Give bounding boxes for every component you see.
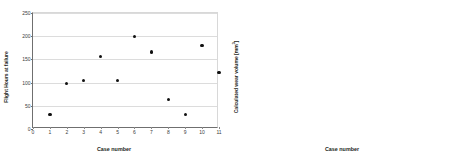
- right-y-axis-label-tail: ]: [233, 41, 239, 43]
- data-point: [217, 71, 220, 74]
- x-tick-label: 10: [199, 129, 205, 135]
- y-tick-mark: [31, 36, 33, 37]
- right-x-axis-label: Case number: [228, 146, 456, 152]
- left-y-axis-label: Flight Hours at failure: [0, 0, 12, 154]
- x-tick-label: 9: [184, 129, 187, 135]
- x-tick-label: 11: [216, 129, 221, 135]
- left-plot-area: 05010015020025001234567891011: [32, 12, 218, 128]
- left-x-axis-label: Case number: [0, 146, 228, 152]
- data-point: [48, 113, 51, 116]
- y-tick-label: 200: [22, 33, 30, 39]
- panel-flight-hours: Flight Hours at failure 0501001502002500…: [0, 0, 228, 154]
- gridline-y: [33, 83, 217, 84]
- y-tick-label: 100: [22, 80, 30, 86]
- gridline-y: [33, 59, 217, 60]
- y-tick-mark: [31, 13, 33, 14]
- data-point: [184, 113, 187, 116]
- x-tick-label: 8: [167, 129, 170, 135]
- x-tick-label: 0: [32, 129, 35, 135]
- y-tick-mark: [31, 59, 33, 60]
- y-tick-label: 50: [25, 103, 31, 109]
- x-tick-label: 7: [150, 129, 153, 135]
- gridline-y: [33, 36, 217, 37]
- data-point: [200, 44, 203, 47]
- x-tick-label: 4: [99, 129, 102, 135]
- y-tick-label: 250: [22, 10, 30, 16]
- x-tick-label: 2: [65, 129, 68, 135]
- x-tick-label: 3: [82, 129, 85, 135]
- x-tick-label: 5: [116, 129, 119, 135]
- gridline-y: [33, 13, 217, 14]
- data-point: [167, 98, 170, 101]
- right-y-axis-label: Calculated wear volume [mm3]: [228, 0, 240, 154]
- x-tick-label: 1: [49, 129, 52, 135]
- data-point: [99, 55, 102, 58]
- gridline-y: [33, 106, 217, 107]
- data-point: [65, 82, 68, 85]
- y-tick-label: 0: [28, 126, 31, 132]
- right-y-axis-label-text: Calculated wear volume [mm: [233, 44, 239, 113]
- y-tick-mark: [31, 106, 33, 107]
- y-tick-label: 150: [22, 56, 30, 62]
- data-point: [133, 35, 136, 38]
- panel-wear-volume: Calculated wear volume [mm3] 01020304050…: [228, 0, 456, 154]
- right-y-axis-label-superscript: 3: [232, 42, 236, 44]
- x-tick-label: 6: [133, 129, 136, 135]
- two-panel-scatter-figure: Flight Hours at failure 0501001502002500…: [0, 0, 456, 154]
- y-tick-mark: [31, 83, 33, 84]
- data-point: [150, 50, 153, 53]
